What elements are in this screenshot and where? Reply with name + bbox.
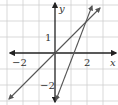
x-tick-neg2: −2 (12, 57, 27, 68)
y-axis-label: y (58, 3, 65, 14)
graph: −2 2 1 −2 x y (0, 0, 118, 105)
x-tick-2: 2 (84, 57, 90, 68)
y-tick-1: 1 (45, 32, 51, 43)
x-axis-label: x (110, 57, 116, 68)
y-tick-neg2: −2 (40, 80, 55, 91)
